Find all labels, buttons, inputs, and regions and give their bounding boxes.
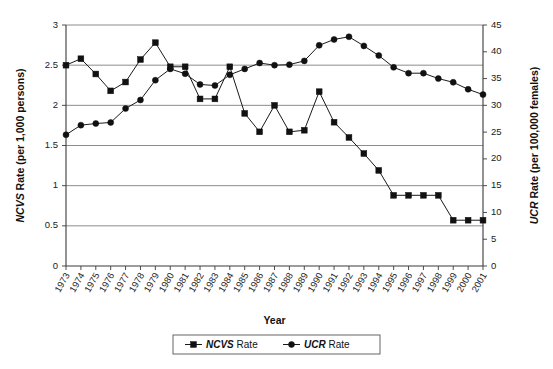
data-point-marker [391,64,397,70]
data-point-marker [272,62,278,68]
y-axis-right-tick-label: 10 [491,206,502,217]
data-point-marker [93,121,99,127]
data-point-marker [152,77,158,83]
y-axis-left-tick-label: 2 [53,99,58,110]
legend-label: UCR Rate [304,339,350,350]
y-axis-left-tick-label: 2.5 [45,59,58,70]
data-point-marker [450,79,456,85]
data-point-marker [286,129,292,135]
data-point-marker [376,53,382,59]
data-point-marker [197,81,203,87]
data-point-marker [272,102,278,108]
y-axis-right-tick-label: 0 [491,260,496,271]
data-point-marker [167,66,173,72]
y-axis-right-tick-label: 15 [491,179,502,190]
legend-marker-square [191,342,197,348]
y-axis-right-tick-label: 5 [491,233,496,244]
data-point-marker [182,71,188,77]
x-axis-tick-label: 2001 [470,271,489,294]
data-point-marker [435,76,441,82]
data-point-marker [78,56,84,62]
data-point-marker [257,129,263,135]
y-axis-left-tick-label: 0.5 [45,219,58,230]
x-axis-title: Year [263,314,285,326]
y-axis-right-title: UCR Rate (per 100,000 females) [528,67,540,225]
y-axis-left-title: NCVS Rate (per 1,000 persons) [14,68,26,222]
data-point-marker [421,192,427,198]
data-point-marker [376,168,382,174]
data-point-marker [346,34,352,40]
data-point-marker [123,79,129,85]
legend-marker-circle [289,342,295,348]
data-point-marker [465,86,471,92]
data-point-marker [331,36,337,42]
data-point-marker [420,70,426,76]
data-point-marker [301,58,307,64]
data-point-marker [137,97,143,103]
y-axis-right-tick-label: 30 [491,99,502,110]
data-point-marker [346,135,352,141]
y-axis-left-tick-label: 3 [53,19,58,30]
x-axis-ticks: 1973197419751976197719781979198019811982… [53,266,489,294]
data-point-marker [406,192,412,198]
data-point-marker [138,57,144,63]
data-point-marker [361,43,367,49]
y-axis-left-tick-label: 1.5 [45,139,58,150]
data-point-marker [316,89,322,95]
data-point-marker [331,119,337,125]
data-point-marker [227,64,233,70]
y-axis-right-tick-label: 40 [491,45,502,56]
data-point-marker [242,110,248,116]
data-point-marker [465,217,471,223]
data-point-marker [286,62,292,68]
data-point-marker [212,96,218,102]
data-point-marker [63,62,69,68]
data-point-marker [93,71,99,77]
data-point-marker [316,42,322,48]
data-point-marker [450,217,456,223]
y-axis-right-tick-label: 25 [491,126,502,137]
data-point-marker [197,96,203,102]
y-axis-left-ticks: 00.511.522.53 [45,19,66,271]
data-point-marker [480,217,486,223]
data-point-marker [108,88,114,94]
data-point-marker [182,64,188,70]
data-point-marker [257,60,263,66]
y-axis-right-tick-label: 20 [491,152,502,163]
data-point-marker [123,106,129,112]
data-point-marker [242,66,248,72]
data-point-marker [212,83,218,89]
data-series-group [63,34,486,223]
y-axis-right-ticks: 051015202530354045 [483,19,502,271]
data-point-marker [227,72,233,78]
data-point-marker [435,192,441,198]
y-axis-right-tick-label: 45 [491,19,502,30]
data-point-marker [480,92,486,98]
data-point-marker [301,127,307,133]
data-point-marker [63,132,69,138]
data-point-marker [406,70,412,76]
data-point-marker [78,122,84,128]
chart-container: 00.511.522.53 051015202530354045 1973197… [0,0,553,369]
data-point-marker [391,192,397,198]
dual-axis-line-chart: 00.511.522.53 051015202530354045 1973197… [0,0,553,369]
legend-label: NCVS Rate [206,339,258,350]
chart-legend: NCVS RateUCR Rate [173,335,380,354]
data-point-marker [108,119,114,125]
y-axis-left-tick-label: 1 [53,179,58,190]
y-axis-right-tick-label: 35 [491,72,502,83]
y-axis-left-tick-label: 0 [53,260,58,271]
data-point-marker [152,40,158,46]
series-ucr-rate [63,34,486,138]
data-point-marker [361,151,367,157]
